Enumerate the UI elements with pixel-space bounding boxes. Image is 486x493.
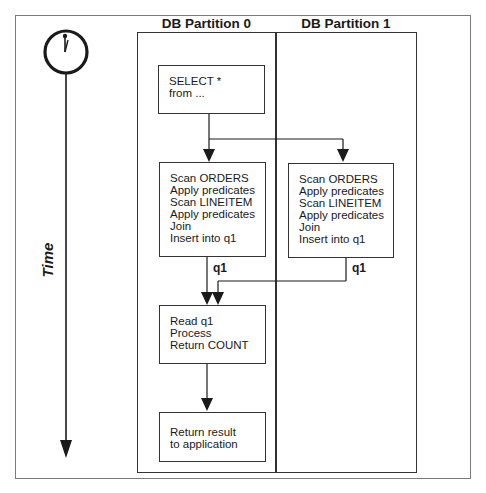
- arrowhead: [212, 292, 224, 305]
- partition-0-scan-box: Scan ORDERS Apply predicates Scan LINEIT…: [159, 162, 266, 257]
- arrowhead: [337, 149, 349, 162]
- q1-label-partition-0: q1: [213, 261, 227, 275]
- q1-label-partition-1: q1: [352, 261, 366, 275]
- read-process-box: Read q1 Process Return COUNT: [159, 305, 266, 364]
- arrowhead: [201, 292, 213, 305]
- select-query-box: SELECT * from ...: [158, 65, 265, 114]
- return-result-box: Return result to application: [159, 412, 266, 462]
- arrowhead: [201, 398, 213, 411]
- arrowhead: [203, 149, 215, 162]
- partition-1-scan-box: Scan ORDERS Apply predicates Scan LINEIT…: [288, 163, 394, 258]
